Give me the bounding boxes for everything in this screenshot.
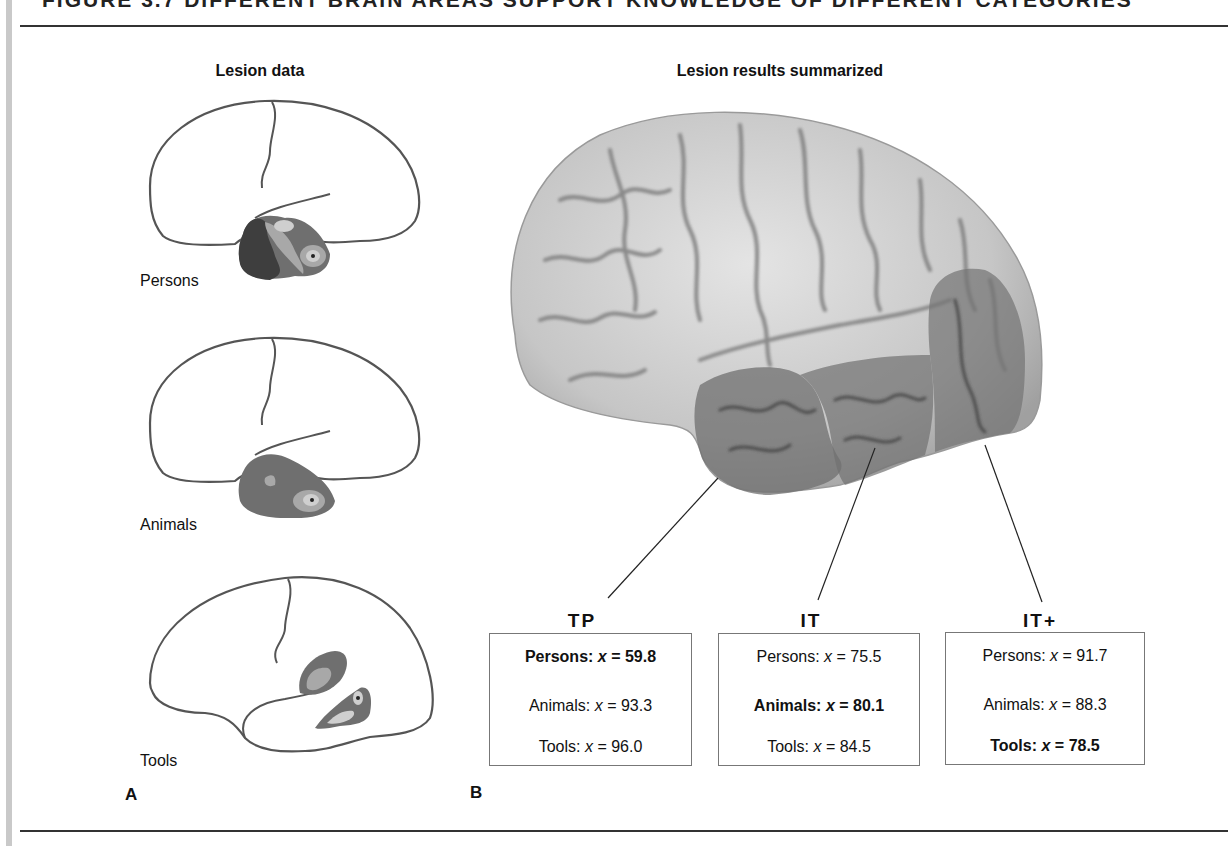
region-label-it: IT	[781, 610, 841, 632]
score-tp-persons: Persons: x = 59.8	[490, 648, 691, 666]
score-tp-tools: Tools: x = 96.0	[490, 738, 691, 756]
score-it-persons: Persons: x = 75.5	[719, 648, 919, 666]
score-it-plus-tools: Tools: x = 78.5	[946, 737, 1144, 755]
leader-line-tp	[608, 478, 718, 598]
score-it-plus-persons: Persons: x = 91.7	[946, 647, 1144, 665]
bottom-rule	[20, 830, 1228, 832]
score-it-tools: Tools: x = 84.5	[719, 738, 919, 756]
region-label-tp: TP	[552, 610, 612, 632]
score-tp-animals: Animals: x = 93.3	[490, 697, 691, 715]
leader-line-it-plus	[985, 445, 1042, 602]
score-it-animals: Animals: x = 80.1	[719, 697, 919, 715]
score-it-plus-animals: Animals: x = 88.3	[946, 696, 1144, 714]
score-box-tp: Persons: x = 59.8 Animals: x = 93.3 Tool…	[489, 633, 692, 766]
score-box-it: Persons: x = 75.5 Animals: x = 80.1 Tool…	[718, 633, 920, 766]
score-box-it-plus: Persons: x = 91.7 Animals: x = 88.3 Tool…	[945, 632, 1145, 765]
region-label-it-plus: IT+	[1010, 610, 1070, 632]
